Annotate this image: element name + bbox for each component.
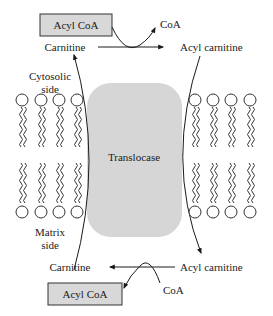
lower-lipids [16, 163, 83, 218]
top-carnitine-label: Carnitine [45, 41, 86, 53]
left-lipid-bilayer [16, 94, 83, 218]
top-coa-label: CoA [160, 18, 181, 30]
cytosolic-side-label-line2: side [41, 83, 59, 95]
matrix-side-label-line2: side [41, 239, 59, 251]
right-lipid-bilayer [189, 94, 256, 218]
bottom-acyl-carnitine-label: Acyl carnitine [180, 261, 243, 273]
cytosolic-side-label-line1: Cytosolic [29, 70, 71, 82]
right-membrane-curve-arrow [183, 56, 201, 253]
bottom-coa-label: CoA [163, 284, 184, 296]
bottom-acyl-coa-label: Acyl CoA [63, 288, 108, 300]
top-coa-release-arrow [112, 27, 155, 48]
bottom-carnitine-label: Carnitine [50, 261, 91, 273]
translocase-label: Translocase [108, 151, 160, 163]
upper-lipids [189, 94, 256, 147]
diagram-canvas: Translocase [0, 0, 273, 316]
left-membrane-curve-arrow [74, 55, 89, 270]
top-acyl-carnitine-label: Acyl carnitine [180, 41, 243, 53]
upper-lipids [16, 94, 83, 147]
top-acyl-coa-label: Acyl CoA [54, 19, 99, 31]
carnitine-shuttle-diagram: Translocase [0, 0, 273, 316]
lower-lipids [189, 163, 256, 218]
matrix-side-label-line1: Matrix [35, 226, 65, 238]
